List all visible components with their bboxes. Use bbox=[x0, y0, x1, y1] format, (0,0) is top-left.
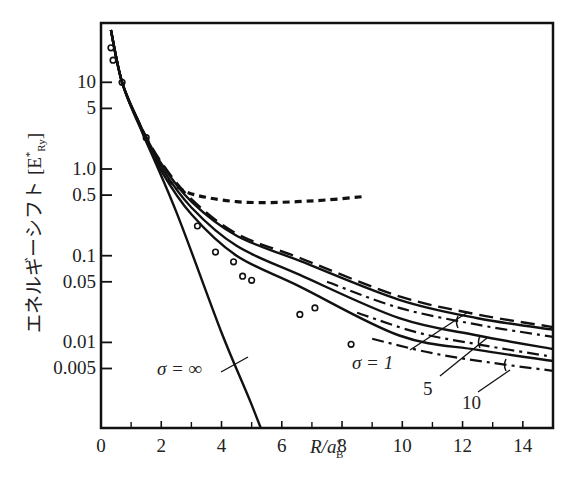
data-point-marker bbox=[108, 45, 114, 51]
data-point-marker bbox=[240, 273, 246, 279]
data-point-marker bbox=[231, 259, 237, 265]
data-point-marker bbox=[195, 223, 201, 229]
y-tick-label: 1.0 bbox=[72, 158, 96, 179]
x-tick-label: 0 bbox=[96, 435, 106, 456]
chart-canvas: 024681012141051.00.50.10.050.010.005 bbox=[0, 0, 576, 492]
series-line-1 bbox=[167, 180, 363, 203]
x-tick-label: 14 bbox=[513, 435, 533, 456]
x-tick-label: 10 bbox=[393, 435, 412, 456]
annotation-sigma-5: 5 bbox=[423, 378, 433, 400]
annotation-leader-line bbox=[221, 357, 248, 372]
y-tick-label: 0.005 bbox=[53, 357, 96, 378]
data-series bbox=[108, 30, 553, 490]
x-tick-label: 2 bbox=[157, 435, 167, 456]
y-tick-label: 0.01 bbox=[63, 331, 96, 352]
curve-bracket-mark bbox=[479, 336, 481, 348]
annotation-sigma-10: 10 bbox=[462, 392, 481, 414]
annotation-leader-line bbox=[478, 370, 510, 392]
series-line-6 bbox=[357, 313, 553, 357]
y-tick-label: 0.05 bbox=[63, 271, 96, 292]
x-tick-label: 4 bbox=[217, 435, 227, 456]
y-tick-label: 0.1 bbox=[72, 245, 96, 266]
x-tick-label: 6 bbox=[277, 435, 287, 456]
annotation-sigma-infinity: σ = ∞ bbox=[157, 358, 202, 380]
series-line-5 bbox=[111, 30, 553, 349]
data-point-marker bbox=[348, 342, 354, 348]
data-point-marker bbox=[110, 57, 116, 63]
y-tick-label: 10 bbox=[77, 71, 96, 92]
x-axis-label: R/a*B bbox=[310, 436, 343, 460]
y-tick-label: 0.5 bbox=[72, 184, 96, 205]
y-tick-label: 5 bbox=[87, 97, 97, 118]
x-tick-label: 12 bbox=[453, 435, 472, 456]
y-axis-unit: [E*Ry] bbox=[24, 133, 45, 175]
series-line-0 bbox=[111, 30, 285, 490]
data-point-marker bbox=[312, 305, 318, 311]
data-point-marker bbox=[213, 249, 219, 255]
annotation-sigma-1: σ = 1 bbox=[352, 352, 393, 374]
axis-ticks: 024681012141051.00.50.10.050.010.005 bbox=[53, 71, 533, 456]
y-axis-label: エネルギーシフト [E*Ry] bbox=[16, 118, 50, 348]
data-point-marker bbox=[297, 312, 303, 318]
series-line-7 bbox=[111, 30, 553, 361]
data-point-marker bbox=[249, 278, 255, 284]
y-axis-label-text: エネルギーシフト bbox=[23, 175, 45, 333]
